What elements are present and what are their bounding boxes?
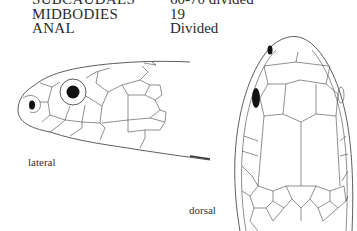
snake-head-dorsal-illustration	[228, 36, 357, 231]
spec-row-anal: ANAL Divided	[32, 21, 254, 36]
spec-value: 19	[170, 7, 185, 22]
lateral-caption: lateral	[28, 156, 55, 168]
spec-label: ANAL	[32, 21, 170, 36]
spec-row-midbodies: MIDBODIES 19	[32, 7, 254, 22]
spec-value: Divided	[170, 21, 218, 36]
dorsal-caption: dorsal	[189, 204, 216, 216]
spec-label: MIDBODIES	[32, 7, 170, 22]
scale-count-table: SUBCAUDALS 60-70 divided MIDBODIES 19 AN…	[32, 0, 254, 36]
snake-head-lateral-illustration	[0, 50, 220, 165]
